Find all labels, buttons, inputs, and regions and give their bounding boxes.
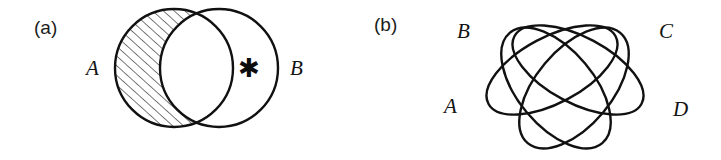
label-set-d: D bbox=[673, 97, 688, 122]
panel-a: (a) bbox=[0, 0, 360, 160]
asterisk-marker: ✱ bbox=[238, 55, 260, 81]
label-set-b: B bbox=[290, 56, 303, 81]
label-set-b: B bbox=[457, 19, 470, 44]
panel-b: (b) A B C D bbox=[360, 0, 721, 160]
venn-2-set-diagram bbox=[0, 0, 360, 160]
label-set-c: C bbox=[659, 19, 673, 44]
label-set-a: A bbox=[86, 56, 99, 81]
label-set-a: A bbox=[444, 94, 457, 119]
figure-canvas: (a) bbox=[0, 0, 721, 160]
